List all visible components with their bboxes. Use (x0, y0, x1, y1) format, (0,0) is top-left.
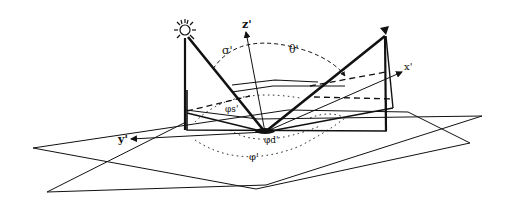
y-axis (131, 132, 265, 139)
y-axis-label: y' (117, 133, 128, 146)
view-zenith-label: θ' (289, 43, 299, 56)
diagram-canvas: z' x' y' σ' θ' φs' φd' φ' (0, 0, 525, 208)
sun-icon (174, 19, 196, 39)
source-azimuth-label: φs' (225, 104, 238, 114)
local-frame (187, 80, 393, 132)
source-zenith-label: σ' (222, 44, 233, 57)
origin-point (255, 128, 275, 134)
view-azimuth-label: φd' (264, 135, 279, 145)
x-axis-label: x' (404, 61, 412, 72)
relative-azimuth-label: φ' (249, 151, 259, 162)
dashed-guides (187, 72, 393, 111)
ground-plane-outer (33, 110, 470, 189)
geometry-diagram: z' x' y' σ' θ' φs' φd' φ' (0, 0, 525, 208)
sensor-icon (380, 26, 389, 35)
z-axis-label: z' (242, 18, 252, 31)
ground-plane-inner (47, 110, 482, 192)
zenith-arc (213, 43, 345, 76)
